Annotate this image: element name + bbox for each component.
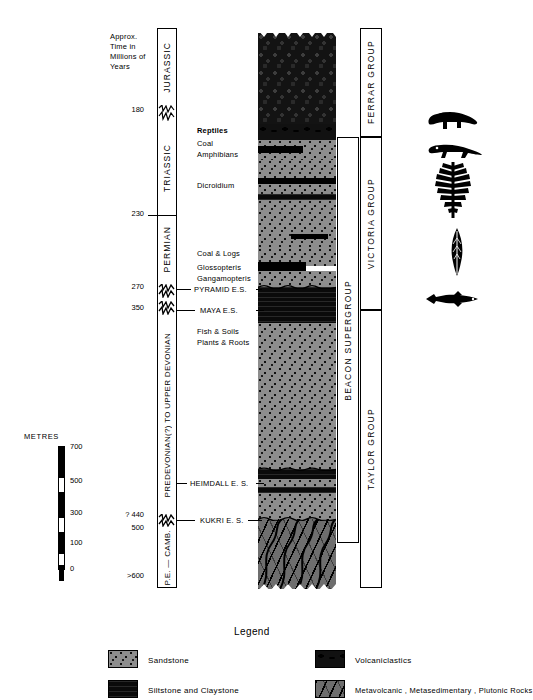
leaf-silhouette (449, 228, 465, 276)
period-permian: PERMIAN (158, 215, 176, 284)
erosion-surface-label-maya: MAYA E.S. (200, 306, 238, 316)
column-top-zigzag (258, 28, 336, 38)
erosion-surface-label-heimdall: HEIMDALL E. S. (190, 479, 248, 489)
period-label: PREDEVONIAN(?) TO UPPER DEVONIAN (163, 333, 172, 497)
metres-tick-label: 100 (70, 538, 83, 547)
scale-segment (59, 565, 64, 581)
time-tick-230: 230 (108, 209, 144, 218)
geologic-period-column: JURASSIC TRIASSIC PERMIAN PREDEVONIAN(?)… (157, 28, 177, 588)
unconformity-squiggle-350 (158, 301, 176, 315)
time-axis-title-line: Years (110, 62, 146, 72)
leader-line-heimdall-right (256, 483, 264, 484)
scale-segment (59, 478, 64, 493)
legend-swatch-volcaniclastics (315, 650, 345, 668)
time-axis-title-line: Millions of (110, 52, 146, 62)
scale-segment (59, 447, 64, 478)
group-label: FERRAR GROUP (366, 40, 376, 124)
unconformity-squiggle-270 (158, 284, 176, 298)
time-tick-600: >600 (100, 571, 144, 580)
time-tick-180: 180 (108, 105, 144, 114)
basement-fold-pattern (258, 519, 336, 589)
erosion-surface-label-pyramid: PYRAMID E.S. (194, 285, 247, 295)
leader-line-maya-right (256, 310, 264, 311)
fern-silhouette (433, 162, 473, 218)
strat-unit-volcaniclastic-lens (258, 124, 336, 140)
scale-segment (59, 554, 64, 565)
annotation-reptiles: Reptiles (197, 126, 228, 136)
metres-scale: METRES 700 500 300 100 0 (24, 432, 59, 441)
time-axis-title-line: Time in (110, 42, 146, 52)
metres-scale-title: METRES (24, 432, 59, 441)
legend-label-sandstone: Sandstone (148, 656, 189, 665)
strat-unit-permian-siltstone (258, 287, 336, 301)
period-label: PERMIAN (162, 226, 172, 272)
annotation-plants-and-roots: Plants & Roots (197, 338, 249, 348)
legend-swatch-sandstone (108, 650, 138, 668)
time-tick-270: 270 (108, 282, 144, 291)
time-axis-title-line: Approx. (110, 32, 146, 42)
annotation-gangamopteris: Gangamopteris (197, 274, 251, 284)
legend-title: Legend (234, 626, 270, 637)
time-tick-440: ? 440 (100, 510, 144, 519)
period-triassic: TRIASSIC (158, 121, 176, 215)
strat-unit-maya-siltstone (258, 301, 336, 323)
legend-swatch-siltstone (108, 680, 138, 698)
group-victoria: VICTORIA GROUP (360, 137, 382, 310)
period-jurassic: JURASSIC (158, 29, 176, 105)
group-label: VICTORIA GROUP (366, 178, 376, 269)
annotation-fish-and-soils: Fish & Soils (197, 327, 239, 337)
annotation-coal: Coal (197, 139, 213, 149)
metres-scale-bar (58, 446, 65, 570)
time-axis-title: Approx. Time in Millions of Years (110, 32, 146, 72)
leader-line-maya-left (177, 310, 195, 311)
time-tick-350: 350 (108, 303, 144, 312)
annotation-glossopteris: Glossopteris (197, 263, 241, 273)
group-taylor: TAYLOR GROUP (360, 310, 382, 588)
strat-unit-devonian-sandstone (258, 323, 336, 471)
period-precambrian-cambrian: P.E. — CAMB. (158, 527, 176, 589)
annotation-amphibians: Amphibians (197, 150, 238, 160)
strat-unit-sandstone (258, 200, 336, 248)
strat-unit-ferrar-volcanics (258, 33, 336, 128)
time-tick-500: 500 (100, 523, 144, 532)
legend-label-siltstone: Siltstone and Claystone (148, 686, 239, 695)
strat-unit-coal-seam (258, 146, 303, 153)
leader-line-pyramid-to-column (256, 289, 262, 290)
leader-line-kukri-left (177, 520, 195, 521)
period-predevonian-to-upper-devonian: PREDEVONIAN(?) TO UPPER DEVONIAN (158, 316, 176, 514)
strat-unit-sandstone (258, 184, 336, 194)
strat-unit-coal-seam (258, 262, 306, 271)
reptile-silhouette (425, 108, 479, 134)
annotation-coal-and-logs: Coal & Logs (197, 249, 240, 259)
legend-swatch-basement (315, 680, 345, 698)
unconformity-squiggle-180 (158, 105, 176, 121)
fish-silhouette (424, 290, 482, 308)
scale-segment (59, 492, 64, 518)
supergroup-beacon: BEACON SUPERGROUP (337, 137, 359, 543)
erosion-surface-kukri (258, 516, 336, 521)
strat-unit-coal-lens (291, 234, 328, 239)
erosion-surface-label-kukri: KUKRI E. S. (200, 516, 243, 526)
legend-label-volcaniclastics: Volcaniclastics (355, 656, 412, 665)
period-label: JURASSIC (162, 42, 172, 93)
group-ferrar: FERRAR GROUP (360, 28, 382, 137)
erosion-surface-pyramid (258, 284, 336, 289)
metres-tick-label: 0 (70, 564, 74, 573)
metres-tick-label: 300 (70, 508, 83, 517)
period-label: TRIASSIC (162, 144, 172, 192)
legend-label-basement: Metavolcanic , Metasedimentary , Plutoni… (355, 686, 533, 695)
stratigraphic-column (258, 28, 336, 593)
leader-line-heimdall-left (177, 483, 187, 484)
annotation-dicroidium: Dicroidium (197, 181, 234, 191)
metres-tick-label: 500 (70, 476, 83, 485)
metres-tick-label: 700 (70, 442, 83, 451)
group-label: TAYLOR GROUP (366, 408, 376, 490)
column-bottom-zigzag (258, 584, 336, 593)
unconformity-squiggle-440 (158, 514, 176, 527)
erosion-surface-heimdall (258, 466, 336, 471)
scale-segment (59, 518, 64, 533)
leader-line-pyramid-left (177, 289, 191, 290)
period-label: P.E. — CAMB. (163, 530, 172, 585)
scale-segment (59, 532, 64, 554)
amphibian-silhouette (423, 140, 483, 162)
